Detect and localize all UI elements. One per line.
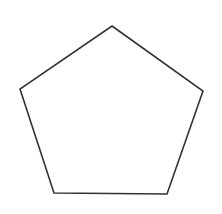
pentagon-diagram	[0, 0, 222, 214]
pentagon-shape	[20, 26, 203, 194]
